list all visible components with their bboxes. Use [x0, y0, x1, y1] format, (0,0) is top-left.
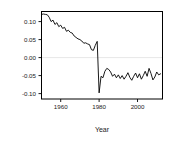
x-axis-tick-label: 1980: [92, 103, 106, 110]
x-axis-tick-label: 2000: [131, 103, 145, 110]
x-axis-tick-label: 1960: [54, 103, 68, 110]
y-axis-tick-label: -0.05: [22, 72, 37, 79]
y-axis-tick-label: 0.00: [24, 54, 37, 61]
y-axis-tick-label: 0.05: [24, 36, 37, 43]
x-axis-tick-labels: 196019802000: [54, 103, 145, 110]
y-axis-tick-label: 0.10: [24, 18, 37, 25]
y-axis-tick-label: -0.10: [22, 90, 37, 97]
chart-figure: -0.10-0.050.000.050.10 196019802000 Year: [0, 0, 173, 141]
x-axis-title: Year: [95, 126, 110, 133]
line-chart: -0.10-0.050.000.050.10 196019802000 Year: [0, 0, 173, 141]
